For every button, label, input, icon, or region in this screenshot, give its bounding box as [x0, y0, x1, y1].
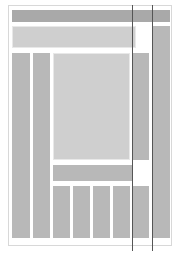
- guide-line-2: [152, 5, 153, 251]
- left-col-2: [33, 53, 50, 238]
- right-inner-col: [132, 53, 149, 160]
- top-bar: [12, 10, 170, 22]
- header-band: [12, 26, 136, 48]
- bottom-col-4: [113, 186, 130, 238]
- far-right-col: [152, 26, 170, 238]
- bottom-col-1: [53, 186, 70, 238]
- left-col-1: [12, 53, 30, 238]
- guide-line-1: [132, 5, 133, 251]
- center-panel: [53, 53, 130, 160]
- bottom-col-2: [73, 186, 90, 238]
- bottom-bar: [53, 165, 132, 181]
- bottom-col-5: [133, 186, 149, 238]
- bottom-col-3: [93, 186, 110, 238]
